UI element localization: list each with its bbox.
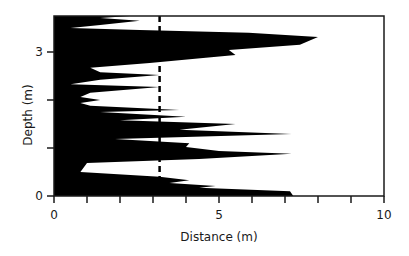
profile-polygon <box>54 16 318 196</box>
x-axis: 0510 <box>50 196 391 222</box>
x-axis-label: Distance (m) <box>180 230 257 244</box>
depth-profile-chart: 0510 03 Distance (m) Depth (m) <box>0 0 409 256</box>
x-tick-label: 5 <box>215 208 223 222</box>
y-tick-label: 3 <box>35 45 43 59</box>
y-tick-label: 0 <box>35 189 43 203</box>
y-axis-label: Depth (m) <box>21 84 35 145</box>
y-axis: 03 <box>35 45 54 203</box>
x-tick-label: 0 <box>50 208 58 222</box>
x-tick-label: 10 <box>376 208 391 222</box>
profile-fill-area <box>54 16 318 196</box>
